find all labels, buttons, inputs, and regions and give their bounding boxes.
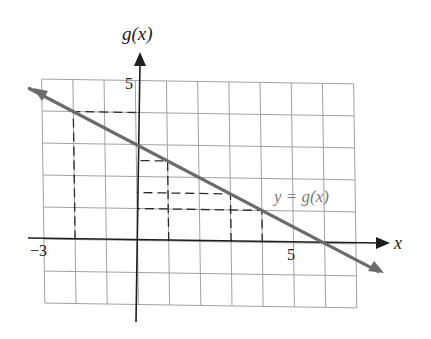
function-label: y = g(x) bbox=[272, 187, 329, 206]
y-axis-label: g(x) bbox=[122, 23, 153, 45]
line-arrow-left-icon bbox=[33, 88, 48, 101]
dashed-guides bbox=[73, 112, 262, 243]
x-axis-arrow-icon bbox=[376, 237, 390, 249]
x-axis bbox=[28, 238, 380, 243]
dashed-guide bbox=[136, 161, 168, 241]
grid-line-vertical bbox=[354, 84, 357, 308]
function-graph: g(x) x 5 −3 5 y = g(x) bbox=[0, 0, 431, 339]
grid-line-vertical bbox=[260, 82, 263, 306]
x-tick-neg3: −3 bbox=[30, 242, 47, 259]
y-axis-arrow-icon bbox=[134, 52, 146, 66]
grid-line-vertical bbox=[42, 79, 45, 303]
x-tick-5: 5 bbox=[287, 246, 295, 263]
dashed-guide bbox=[137, 193, 231, 242]
grid-line-vertical bbox=[104, 80, 107, 304]
y-tick-5: 5 bbox=[125, 75, 133, 92]
x-axis-label: x bbox=[393, 233, 402, 253]
